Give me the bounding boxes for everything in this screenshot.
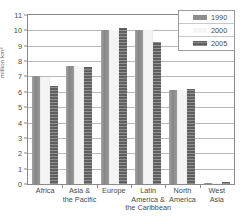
bar-1990-africa[interactable] [32, 76, 40, 184]
bar-group [62, 15, 96, 184]
bar-2005-west[interactable] [222, 182, 230, 184]
x-axis-label-line: the Pacific [55, 196, 104, 205]
bar-group [28, 15, 62, 184]
y-axis-tick: 5 [18, 103, 22, 112]
legend-label-1990: 1990 [211, 13, 231, 22]
series-1990-swatch [193, 15, 207, 20]
bar-2005-asia &[interactable] [84, 67, 92, 184]
x-axis-tick-mark [200, 185, 201, 188]
bar-2005-africa[interactable] [50, 86, 58, 184]
bar-2005-europe[interactable] [119, 28, 127, 184]
series-2000-swatch [193, 28, 207, 33]
legend-item-2000[interactable]: 2000 [179, 24, 234, 37]
bar-2000-asia &[interactable] [74, 66, 84, 184]
bar-2000-europe[interactable] [109, 30, 119, 184]
x-axis-tick-mark [165, 185, 166, 188]
x-axis-tick-mark [97, 185, 98, 188]
x-axis-label-line: Asia [192, 196, 241, 205]
bar-1990-asia &[interactable] [66, 66, 74, 184]
y-axis-tick: 7 [18, 72, 22, 81]
bar-group [97, 15, 131, 184]
y-axis-tick: 10 [14, 26, 22, 35]
bar-2000-north[interactable] [177, 90, 187, 184]
bar-1990-europe[interactable] [101, 30, 109, 184]
y-axis-tick: 6 [18, 87, 22, 96]
series-2005-swatch [193, 41, 207, 46]
y-axis-tick: 4 [18, 118, 22, 127]
legend-item-2005[interactable]: 2005 [179, 37, 234, 50]
bar-2000-west[interactable] [212, 183, 222, 184]
bar-2000-latin[interactable] [143, 30, 153, 184]
x-axis-tick-mark [62, 185, 63, 188]
legend-label-2005: 2005 [211, 39, 231, 48]
x-axis-tick-mark [131, 185, 132, 188]
y-axis-tick: 2 [18, 149, 22, 158]
bar-2005-latin[interactable] [153, 42, 161, 184]
bar-1990-latin[interactable] [135, 30, 143, 184]
y-axis-tick: 3 [18, 133, 22, 142]
bar-1990-north[interactable] [169, 90, 177, 184]
y-axis-tick: 9 [18, 41, 22, 50]
x-axis-label-line: the Caribbean [123, 204, 172, 213]
bar-2000-africa[interactable] [40, 77, 50, 184]
x-axis-tick-label: WestAsia [192, 187, 241, 204]
y-axis-tick: 11 [14, 11, 22, 20]
legend-item-1990[interactable]: 1990 [179, 11, 234, 24]
bar-2005-north[interactable] [187, 89, 195, 184]
y-axis-tick: 1 [18, 164, 22, 173]
chart-legend: 1990 2000 2005 [178, 10, 235, 51]
bar-chart-figure: million km² 01234567891011 AfricaAsia &t… [0, 0, 241, 224]
footer-cut-text [2, 218, 239, 224]
bar-1990-west[interactable] [204, 183, 212, 184]
bar-group [131, 15, 165, 184]
legend-label-2000: 2000 [211, 26, 231, 35]
y-axis-tick: 8 [18, 57, 22, 66]
